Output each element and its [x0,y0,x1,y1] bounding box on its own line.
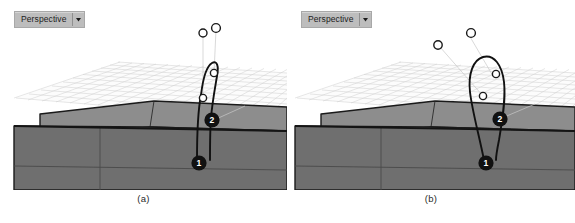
wall-front-face [295,126,575,190]
viewport-b[interactable]: 2 1 [287,0,575,190]
chevron-down-icon[interactable] [360,12,371,27]
marker-badge-1-a-label: 1 [197,158,202,168]
chevron-down-icon[interactable] [73,12,84,27]
viewport-a[interactable]: 2 1 [0,0,287,190]
control-point-floating-left [434,41,442,49]
control-point-floating-right [467,29,476,38]
viewport-label-dropdown-b[interactable]: Perspective [301,11,372,28]
control-point-on-curve-right [210,69,217,76]
marker-badge-1-b-label: 1 [484,158,489,168]
marker-badge-2-b-label: 2 [498,114,503,124]
wall-front-face [14,126,287,190]
control-point-on-curve-right [492,70,499,77]
control-point-floating-left [199,29,207,37]
caption-a: (a) [0,193,287,204]
viewport-label-dropdown-a[interactable]: Perspective [14,11,85,28]
marker-badge-1-b: 1 [478,155,493,170]
viewport-label-text-a: Perspective [15,12,72,27]
control-point-on-curve-left [199,94,206,101]
marker-badge-2-a: 2 [204,112,219,127]
control-point-on-curve-left [479,92,486,99]
marker-badge-1-a: 1 [191,155,206,170]
panel-a: 2 1 Perspective (a) [0,0,287,223]
panel-b: 2 1 Perspective (b) [287,0,575,223]
viewport-label-text-b: Perspective [302,12,359,27]
marker-badge-2-b: 2 [492,111,507,126]
control-point-floating-right [212,24,221,33]
marker-badge-2-a-label: 2 [210,115,215,125]
figure-container: 2 1 Perspective (a) [0,0,575,223]
caption-b: (b) [287,193,575,204]
